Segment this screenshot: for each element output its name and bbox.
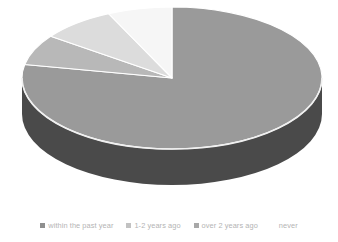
pie-chart-figure: within the past year 1-2 years ago over … [0,0,338,242]
legend-item-label: over 2 years ago [202,221,258,230]
legend-item-label: 1-2 years ago [134,221,180,230]
legend-swatch-icon [194,223,199,228]
chart-legend: within the past year 1-2 years ago over … [0,216,338,234]
pie-top-surface [22,7,322,149]
pie-chart-canvas [0,0,338,200]
legend-item-label: never [279,221,298,230]
legend-swatch-icon [271,223,276,228]
legend-item-label: within the past year [48,221,113,230]
legend-item[interactable]: over 2 years ago [194,221,258,230]
legend-item[interactable]: within the past year [40,221,113,230]
legend-item[interactable]: 1-2 years ago [126,221,180,230]
legend-swatch-icon [126,223,131,228]
legend-item[interactable]: never [271,221,298,230]
legend-swatch-icon [40,223,45,228]
